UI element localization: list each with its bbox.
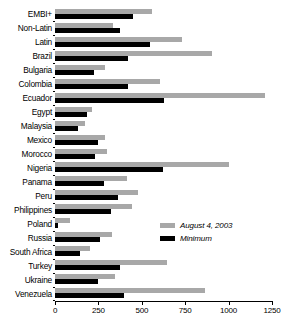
category-label-venezuela: Venezuela	[0, 289, 52, 299]
x-tick-0	[55, 301, 56, 305]
bar-minimum-malaysia	[55, 126, 78, 131]
category-label-latin: Latin	[0, 37, 52, 47]
bar-minimum-bulgaria	[55, 70, 94, 75]
category-label-ukraine: Ukraine	[0, 275, 52, 285]
chart-row: Philippines	[0, 203, 283, 217]
x-tick-750	[185, 301, 186, 305]
chart-row: Malaysia	[0, 120, 283, 134]
x-tick-label-1000: 1000	[220, 306, 237, 315]
chart-row: Egypt	[0, 106, 283, 120]
bar-minimum-panama	[55, 181, 104, 186]
bar-minimum-ecuador	[55, 98, 164, 103]
category-label-panama: Panama	[0, 177, 52, 187]
x-tick-1000	[229, 301, 230, 305]
bar-minimum-latin	[55, 42, 150, 47]
chart-legend: August 4, 2003 Minimum	[160, 220, 232, 246]
category-label-russia: Russia	[0, 233, 52, 243]
x-tick-label-1250: 1250	[264, 306, 281, 315]
bar-minimum-turkey	[55, 265, 120, 270]
bar-minimum-venezuela	[55, 293, 124, 298]
category-label-egypt: Egypt	[0, 107, 52, 117]
chart-row: Bulgaria	[0, 64, 283, 78]
category-label-morocco: Morocco	[0, 149, 52, 159]
bar-minimum-south-africa	[55, 251, 80, 256]
x-tick-label-750: 750	[179, 306, 192, 315]
chart-row: Peru	[0, 189, 283, 203]
category-label-bulgaria: Bulgaria	[0, 65, 52, 75]
chart-row: Venezuela	[0, 287, 283, 301]
bar-minimum-ukraine	[55, 279, 98, 284]
x-tick-label-250: 250	[92, 306, 105, 315]
chart-row: EMBI+	[0, 8, 283, 22]
bar-minimum-peru	[55, 195, 118, 200]
chart-row: Ecuador	[0, 92, 283, 106]
bar-minimum-brazil	[55, 56, 128, 61]
legend-swatch-current	[160, 223, 175, 228]
bar-minimum-colombia	[55, 84, 128, 89]
chart-row: Colombia	[0, 78, 283, 92]
category-label-ecuador: Ecuador	[0, 93, 52, 103]
chart-row: Brazil	[0, 50, 283, 64]
chart-row: Turkey	[0, 259, 283, 273]
category-label-embi-: EMBI+	[0, 9, 52, 19]
category-label-turkey: Turkey	[0, 261, 52, 271]
bar-minimum-philippines	[55, 209, 111, 214]
category-label-poland: Poland	[0, 219, 52, 229]
x-tick-250	[98, 301, 99, 305]
category-label-philippines: Philippines	[0, 205, 52, 215]
bar-minimum-non-latin	[55, 28, 120, 33]
chart-row: Russia	[0, 231, 283, 245]
category-label-peru: Peru	[0, 191, 52, 201]
bar-chart: EMBI+Non-LatinLatinBrazilBulgariaColombi…	[0, 0, 283, 334]
chart-row: Nigeria	[0, 161, 283, 175]
bar-minimum-poland	[55, 223, 58, 228]
x-tick-1250	[272, 301, 273, 305]
category-label-colombia: Colombia	[0, 79, 52, 89]
chart-row: Non-Latin	[0, 22, 283, 36]
chart-row: Poland	[0, 217, 283, 231]
x-tick-label-500: 500	[135, 306, 148, 315]
bar-minimum-nigeria	[55, 167, 163, 172]
category-label-non-latin: Non-Latin	[0, 23, 52, 33]
chart-row: Ukraine	[0, 273, 283, 287]
category-label-mexico: Mexico	[0, 135, 52, 145]
chart-row: Latin	[0, 36, 283, 50]
chart-row: Panama	[0, 175, 283, 189]
x-tick-label-0: 0	[53, 306, 57, 315]
legend-item-current: August 4, 2003	[160, 220, 232, 231]
chart-row: South Africa	[0, 245, 283, 259]
category-label-brazil: Brazil	[0, 51, 52, 61]
legend-label-minimum: Minimum	[180, 234, 212, 243]
bar-minimum-embi-	[55, 14, 133, 19]
bar-minimum-mexico	[55, 140, 98, 145]
chart-row: Mexico	[0, 134, 283, 148]
bar-minimum-egypt	[55, 112, 87, 117]
chart-row: Morocco	[0, 148, 283, 162]
category-label-south-africa: South Africa	[0, 247, 52, 257]
legend-swatch-minimum	[160, 236, 175, 241]
x-tick-500	[142, 301, 143, 305]
category-label-nigeria: Nigeria	[0, 163, 52, 173]
category-label-malaysia: Malaysia	[0, 121, 52, 131]
x-axis-line	[55, 301, 272, 302]
bar-minimum-russia	[55, 237, 100, 242]
bar-minimum-morocco	[55, 154, 95, 159]
legend-label-current: August 4, 2003	[180, 221, 232, 230]
legend-item-minimum: Minimum	[160, 233, 232, 244]
